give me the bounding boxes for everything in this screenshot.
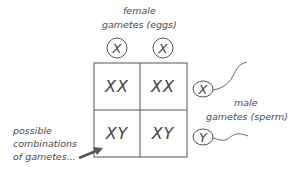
female-label-line2: gametes (eggs) bbox=[102, 19, 177, 30]
annotation-line1: possible bbox=[13, 125, 52, 136]
annotation-line2: combinations bbox=[13, 138, 77, 149]
male-label-line1: male bbox=[234, 97, 258, 108]
grid-cell-2-2: XY bbox=[140, 110, 186, 156]
sperm-tail bbox=[213, 134, 248, 140]
sperm-gamete-x: X bbox=[193, 81, 213, 97]
grid-cell-2-1: XY bbox=[94, 110, 140, 156]
male-label-line2: gametes (sperm) bbox=[206, 111, 288, 122]
egg-gamete-1: X bbox=[107, 38, 127, 58]
grid-cell-1-1: XX bbox=[94, 63, 140, 109]
grid-cell-1-2: XX bbox=[140, 63, 186, 109]
female-label-line1: female bbox=[123, 5, 156, 16]
annotation-line3: of gametes... bbox=[13, 151, 76, 162]
sperm-gamete-y: Y bbox=[193, 129, 213, 145]
egg-gamete-2: X bbox=[153, 38, 173, 58]
sperm-tail bbox=[213, 62, 247, 90]
